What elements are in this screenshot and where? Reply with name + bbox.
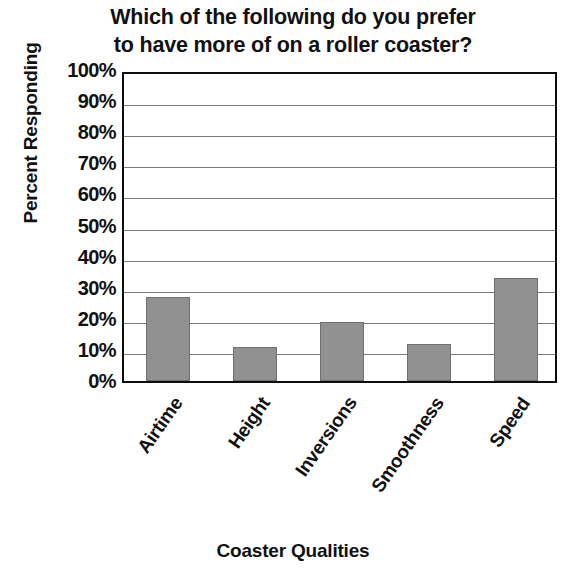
x-tick-label: Smoothness — [367, 393, 449, 497]
y-axis-tick-labels: 100%90%80%70%60%50%40%30%20%10%0% — [0, 0, 116, 572]
x-axis-tick-labels: AirtimeHeightInversionsSmoothnessSpeed — [122, 383, 557, 533]
bar — [407, 344, 451, 381]
y-tick-label: 90% — [4, 90, 116, 113]
x-tick-label: Speed — [485, 393, 535, 451]
bar-chart: Which of the following do you prefer to … — [0, 0, 586, 572]
y-tick-label: 0% — [4, 370, 116, 393]
y-tick-label: 60% — [4, 183, 116, 206]
y-tick-label: 20% — [4, 308, 116, 331]
x-tick-label: Inversions — [291, 393, 362, 481]
x-axis-title: Coaster Qualities — [0, 540, 586, 562]
y-tick-label: 40% — [4, 246, 116, 269]
bar — [320, 322, 364, 381]
y-tick-label: 50% — [4, 215, 116, 238]
bar — [233, 347, 277, 381]
plot-area — [122, 72, 557, 383]
bar — [494, 278, 538, 381]
y-tick-label: 30% — [4, 277, 116, 300]
y-tick-label: 80% — [4, 121, 116, 144]
x-tick-label: Height — [224, 393, 275, 453]
bar-series — [124, 74, 555, 381]
x-tick-label: Airtime — [133, 393, 187, 458]
y-tick-label: 70% — [4, 152, 116, 175]
y-tick-label: 10% — [4, 339, 116, 362]
bar — [146, 297, 190, 381]
y-tick-label: 100% — [4, 59, 116, 82]
